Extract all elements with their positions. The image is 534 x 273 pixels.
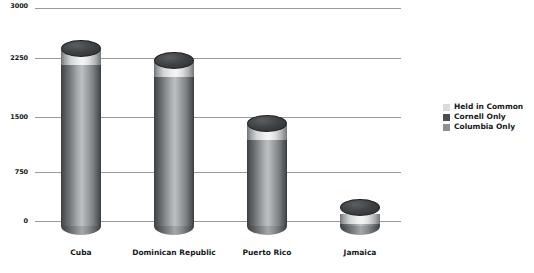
legend-label-cornell-only: Cornell Only xyxy=(454,112,506,122)
bar-cuba[interactable] xyxy=(61,40,101,236)
bar-dominican-republic[interactable] xyxy=(154,52,194,236)
legend-item-cornell-only[interactable]: Cornell Only xyxy=(443,112,523,122)
x-label-cuba: Cuba xyxy=(41,248,121,257)
legend-swatch-held-in-common xyxy=(443,104,450,111)
y-tick-label-0: 0 xyxy=(0,217,28,225)
bar-puerto-rico[interactable] xyxy=(247,115,287,236)
bar-jamaica-cap xyxy=(340,199,380,216)
legend-label-columbia-only: Columbia Only xyxy=(454,122,515,132)
chart-legend: Held in Common Cornell Only Columbia Onl… xyxy=(443,102,523,132)
legend-swatch-cornell-only xyxy=(443,114,450,121)
legend-item-columbia-only[interactable]: Columbia Only xyxy=(443,122,523,132)
bar-jamaica[interactable] xyxy=(340,199,380,236)
bar-dominican-republic-body xyxy=(154,76,194,226)
bar-cuba-cap xyxy=(61,40,101,57)
gridline-3000 xyxy=(35,8,401,9)
bar-dominican-republic-cap xyxy=(154,52,194,69)
y-tick-label-2250: 2250 xyxy=(0,54,28,62)
legend-swatch-columbia-only xyxy=(443,124,450,131)
legend-label-held-in-common: Held in Common xyxy=(454,102,523,112)
bar-cuba-body xyxy=(61,64,101,226)
y-tick-label-750: 750 xyxy=(0,168,28,176)
y-tick-label-1500: 1500 xyxy=(0,113,28,121)
x-label-dominican-republic: Dominican Republic xyxy=(124,248,224,257)
bar-puerto-rico-cap xyxy=(247,115,287,132)
x-label-puerto-rico: Puerto Rico xyxy=(227,248,307,257)
legend-item-held-in-common[interactable]: Held in Common xyxy=(443,102,523,112)
y-tick-label-3000: 3000 xyxy=(0,2,28,10)
x-label-jamaica: Jamaica xyxy=(320,248,400,257)
bar-chart: 3000 2250 1500 750 0 Cuba Dominican Repu… xyxy=(0,0,534,273)
bar-puerto-rico-body xyxy=(247,139,287,226)
